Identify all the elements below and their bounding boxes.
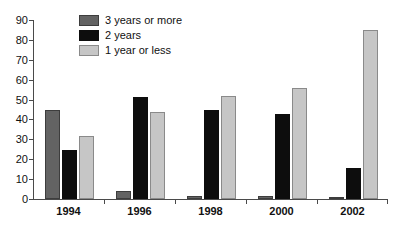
legend-swatch	[79, 45, 99, 56]
bar	[275, 114, 290, 199]
y-axis-tick-label: 90	[16, 15, 28, 26]
legend-label: 2 years	[105, 30, 141, 41]
y-axis-tick-label: 10	[16, 174, 28, 185]
x-axis-separator	[317, 199, 318, 204]
x-axis-tick-label: 1998	[198, 206, 222, 217]
bar	[79, 136, 94, 199]
chart-legend: 3 years or more2 years1 year or less	[79, 14, 182, 59]
y-axis-tick-label: 80	[16, 34, 28, 45]
bar	[346, 168, 361, 199]
bar	[116, 191, 131, 199]
x-axis-separator	[387, 199, 388, 204]
legend-label: 1 year or less	[105, 45, 171, 56]
y-axis-tick-label: 50	[16, 94, 28, 105]
legend-item: 1 year or less	[79, 44, 182, 57]
legend-swatch	[79, 15, 99, 26]
bar	[292, 88, 307, 199]
bar	[363, 30, 378, 199]
y-axis-tick-label: 60	[16, 74, 28, 85]
bar	[204, 110, 219, 200]
y-axis-tick	[29, 199, 33, 200]
y-axis-tick-label: 70	[16, 54, 28, 65]
y-axis-tick-label: 20	[16, 154, 28, 165]
x-axis-tick-label: 2000	[269, 206, 293, 217]
bar	[62, 150, 77, 199]
y-axis-tick-label: 40	[16, 114, 28, 125]
x-axis-tick-label: 1994	[56, 206, 80, 217]
bar	[258, 196, 273, 199]
x-axis-tick-label: 1996	[127, 206, 151, 217]
legend-label: 3 years or more	[105, 15, 182, 26]
legend-item: 3 years or more	[79, 14, 182, 27]
y-axis-tick-label: 0	[22, 194, 28, 205]
x-axis-tick-label: 2002	[340, 206, 364, 217]
bar-group	[246, 14, 317, 199]
bar	[45, 110, 60, 200]
y-axis-tick-label: 30	[16, 134, 28, 145]
bar	[329, 197, 344, 199]
bar	[221, 96, 236, 199]
x-axis-separator	[246, 199, 247, 204]
x-axis-separator	[104, 199, 105, 204]
bar	[150, 112, 165, 200]
bar-chart-figure: 0102030405060708090 19941996199820002002…	[0, 0, 406, 234]
legend-swatch	[79, 30, 99, 41]
x-axis-separator	[175, 199, 176, 204]
bar-group	[175, 14, 246, 199]
bar-group	[317, 14, 388, 199]
x-axis-line	[33, 199, 388, 200]
bar	[133, 97, 148, 199]
legend-item: 2 years	[79, 29, 182, 42]
bar	[187, 196, 202, 199]
